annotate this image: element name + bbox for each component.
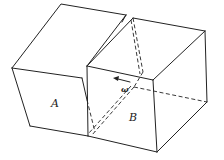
block-a-label: A: [50, 97, 59, 110]
hidden-edges: [87, 18, 207, 135]
angular-velocity-arrow: [113, 76, 130, 82]
hidden-plane-back-edge: [133, 18, 143, 72]
block-b-top-right-edge: [153, 31, 205, 80]
hidden-back-bottom-edge: [134, 87, 207, 102]
hidden-plane-mid-edge: [134, 72, 143, 87]
block-a-right-edge: [82, 78, 87, 100]
block-diagram: ω A B: [0, 0, 224, 160]
block-b-bottom-right-edge: [157, 102, 207, 152]
block-b-label: B: [128, 111, 137, 124]
block-a-top-back-edges: [12, 4, 126, 68]
block-a-left-edge: [12, 68, 30, 126]
block-a-top-right-edge: [87, 15, 126, 66]
block-a-top-front-edge: [12, 68, 82, 78]
omega-label: ω: [121, 84, 129, 94]
block-a-top-corner: [122, 15, 126, 22]
block-b-bottom-front-edge: [88, 136, 157, 152]
arrow-shaft: [118, 79, 130, 82]
block-b-top-back-edge: [133, 18, 205, 31]
arrow-head-icon: [113, 76, 119, 81]
block-b-top-left-edge: [87, 18, 133, 66]
hidden-plane-diagonal: [92, 87, 134, 135]
block-b: [87, 18, 207, 152]
block-b-top-front-edge: [87, 66, 153, 80]
block-b-back-right-edge: [205, 31, 207, 102]
block-a-bottom-edge: [30, 126, 88, 136]
block-a: [12, 4, 126, 136]
